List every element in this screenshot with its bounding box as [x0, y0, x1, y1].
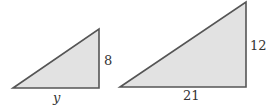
small-triangle — [13, 29, 99, 88]
triangles-figure — [0, 0, 266, 106]
large-triangle-height-label: 12 — [250, 39, 266, 52]
large-triangle-base-label: 21 — [183, 89, 200, 102]
small-triangle-height-label: 8 — [104, 54, 112, 67]
small-triangle-base-label: y — [53, 91, 60, 104]
large-triangle — [120, 2, 246, 87]
